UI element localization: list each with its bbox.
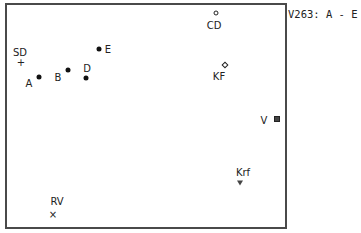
point-label-rv: RV xyxy=(50,197,63,207)
circle-marker-icon xyxy=(214,11,219,16)
cross-marker-icon: × xyxy=(49,210,57,220)
chart-title: V263: A - E xyxy=(288,8,358,20)
point-label-kf: KF xyxy=(213,72,225,82)
point-label-v: V xyxy=(261,116,268,126)
point-label-a: A xyxy=(26,79,33,89)
dot-marker-icon xyxy=(97,47,102,52)
dot-marker-icon xyxy=(37,75,42,80)
point-label-d: D xyxy=(83,64,91,74)
plot-frame xyxy=(5,3,287,229)
point-label-b: B xyxy=(55,73,62,83)
square-marker-icon xyxy=(274,116,280,122)
dot-marker-icon xyxy=(84,76,89,81)
point-label-cd: CD xyxy=(207,21,222,31)
point-label-e: E xyxy=(105,45,111,55)
point-label-krf: Krf xyxy=(236,168,250,178)
point-label-sd: SD xyxy=(13,48,27,58)
dot-marker-icon xyxy=(66,68,71,73)
plus-marker-icon: + xyxy=(17,58,25,68)
triangle-marker-icon xyxy=(237,181,243,186)
